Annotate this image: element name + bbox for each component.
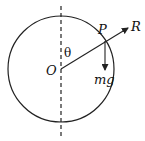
diagram-canvas: O P R mg θ	[0, 0, 145, 141]
label-angle-theta: θ	[64, 46, 71, 60]
label-reaction-R: R	[130, 19, 141, 34]
physics-diagram: O P R mg θ	[0, 0, 145, 141]
label-center-O: O	[46, 63, 57, 78]
label-weight-mg: mg	[94, 72, 115, 87]
label-point-P: P	[97, 22, 107, 37]
